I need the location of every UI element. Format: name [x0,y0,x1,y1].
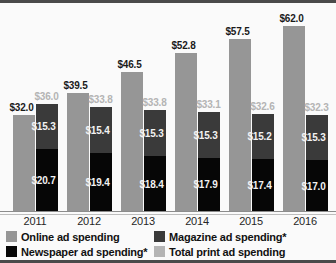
legend-item[interactable]: Newspaper ad spending* [6,245,147,258]
value-label-newspaper: $17.0 [301,181,325,192]
bar-total-print-ad-spending: $20.7$15.3 [36,104,58,211]
x-tick-label: 2013 [116,215,170,227]
legend-item[interactable]: Online ad spending [6,230,119,243]
value-label-online: $39.5 [64,80,88,91]
value-label-newspaper: $19.4 [85,177,109,188]
bar-total-print-ad-spending: $17.9$15.3 [198,112,220,211]
bar-group: $57.5$17.4$15.2$32.6 [229,8,274,211]
x-tick-label: 2016 [278,215,332,227]
value-label-magazine: $15.3 [139,128,163,139]
segment-magazine-ad-spending: $15.3 [306,115,328,161]
value-label-newspaper: $17.4 [247,180,271,191]
legend-item-label: Magazine ad spending* [169,231,286,243]
value-label-newspaper: $20.7 [31,175,55,186]
segment-magazine-ad-spending: $15.3 [144,110,166,156]
legend-item[interactable]: Total print ad spending [154,245,285,258]
value-label-newspaper: $18.4 [139,179,163,190]
segment-newspaper-ad-spending: $18.4 [144,156,166,211]
bar-total-print-ad-spending: $17.0$15.3 [306,115,328,211]
bar-total-print-ad-spending: $17.4$15.2 [252,114,274,211]
bar-group: $52.8$17.9$15.3$33.1 [175,8,220,211]
value-label-total-print: $32.3 [305,102,329,113]
bar-online-ad-spending [67,93,89,211]
segment-magazine-ad-spending: $15.2 [252,114,274,159]
x-axis-line [0,211,336,212]
segment-magazine-ad-spending: $15.3 [36,104,58,150]
bar-group: $39.5$19.4$15.4$33.8 [67,8,112,211]
legend-swatch-icon [6,246,17,257]
value-label-magazine: $15.3 [193,130,217,141]
value-label-total-print: $36.0 [35,91,59,102]
legend-swatch-icon [154,231,165,242]
legend-item[interactable]: Magazine ad spending* [154,230,286,243]
value-label-online: $57.5 [226,26,250,37]
bar-group: $62.0$17.0$15.3$32.3 [283,8,328,211]
x-tick-label: 2014 [170,215,224,227]
value-label-total-print: $32.6 [251,101,275,112]
segment-magazine-ad-spending: $15.3 [198,112,220,158]
segment-newspaper-ad-spending: $17.9 [198,158,220,211]
bar-group: $46.5$18.4$15.3$33.8 [121,8,166,211]
segment-newspaper-ad-spending: $20.7 [36,149,58,211]
value-label-total-print: $33.8 [89,94,113,105]
value-label-online: $32.0 [10,102,34,113]
segment-magazine-ad-spending: $15.4 [90,107,112,153]
legend-item-label: Newspaper ad spending* [21,246,147,258]
segment-newspaper-ad-spending: $19.4 [90,153,112,211]
top-divider-rule [0,0,336,3]
value-label-newspaper: $17.9 [193,179,217,190]
value-label-magazine: $15.4 [85,125,109,136]
value-label-magazine: $15.2 [247,131,271,142]
bar-total-print-ad-spending: $18.4$15.3 [144,110,166,211]
value-label-total-print: $33.8 [143,97,167,108]
value-label-magazine: $15.3 [301,132,325,143]
x-tick-label: 2015 [224,215,278,227]
plot-area: $32.0$20.7$15.3$36.0$39.5$19.4$15.4$33.8… [0,8,336,211]
value-label-online: $52.8 [172,40,196,51]
x-tick-label: 2011 [8,215,62,227]
value-label-magazine: $15.3 [31,121,55,132]
value-label-online: $46.5 [118,59,142,70]
segment-newspaper-ad-spending: $17.4 [252,159,274,211]
chart-legend: Online ad spendingMagazine ad spending*N… [6,230,330,258]
bar-total-print-ad-spending: $19.4$15.4 [90,107,112,211]
bar-online-ad-spending [121,72,143,211]
segment-newspaper-ad-spending: $17.0 [306,160,328,211]
legend-item-label: Online ad spending [21,231,119,243]
x-tick-label: 2012 [62,215,116,227]
value-label-online: $62.0 [280,13,304,24]
legend-item-label: Total print ad spending [169,246,285,258]
legend-swatch-icon [154,246,165,257]
bar-group: $32.0$20.7$15.3$36.0 [13,8,58,211]
ad-spending-bar-chart: $32.0$20.7$15.3$36.0$39.5$19.4$15.4$33.8… [0,0,336,263]
value-label-total-print: $33.1 [197,99,221,110]
legend-swatch-icon [6,231,17,242]
